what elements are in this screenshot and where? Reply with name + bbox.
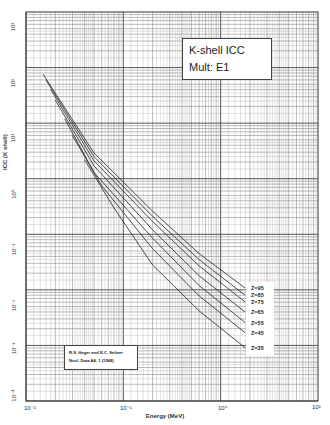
z-label: Z=55 — [249, 320, 266, 327]
x-tick: 10⁻² — [24, 404, 36, 411]
z-label: Z=35 — [249, 345, 266, 352]
z-label: Z=95 — [249, 285, 266, 292]
z-label: Z=65 — [249, 309, 266, 316]
x-tick: 10⁰ — [218, 404, 227, 411]
reference-authors: R.S. Hager and E.C. Seltzer — [69, 349, 133, 357]
x-axis-label: Energy (MeV) — [0, 413, 330, 419]
icc-curve-z-75 — [51, 90, 245, 302]
plot-grid — [26, 12, 318, 401]
y-tick: 10⁻² — [10, 298, 17, 314]
reference-box: R.S. Hager and E.C. Seltzer Nucl. Data A… — [64, 345, 138, 370]
y-tick: 10¹ — [10, 130, 16, 146]
y-tick: 10³ — [10, 19, 16, 35]
chart-title: K-shell ICC — [189, 42, 265, 59]
chart-title-box: K-shell ICC Mult: E1 — [182, 38, 272, 80]
icc-chart — [0, 0, 330, 425]
y-tick: 10⁻⁴ — [10, 388, 17, 404]
x-tick: 10⁻¹ — [120, 404, 132, 411]
y-tick: 10² — [10, 75, 16, 91]
y-tick: 10⁻³ — [10, 341, 17, 357]
x-tick: 10¹ — [312, 404, 321, 410]
z-label: Z=45 — [249, 330, 266, 337]
y-tick: 10⁰ — [10, 187, 17, 203]
reference-citation: Nucl. Data A4, 1 (1968) — [69, 357, 133, 365]
chart-subtitle: Mult: E1 — [189, 59, 265, 76]
y-tick: 10⁻¹ — [10, 242, 17, 258]
z-label: Z=75 — [249, 299, 266, 306]
y-axis-label: ICC (K shell) — [2, 134, 8, 170]
z-label: Z=85 — [249, 292, 266, 299]
